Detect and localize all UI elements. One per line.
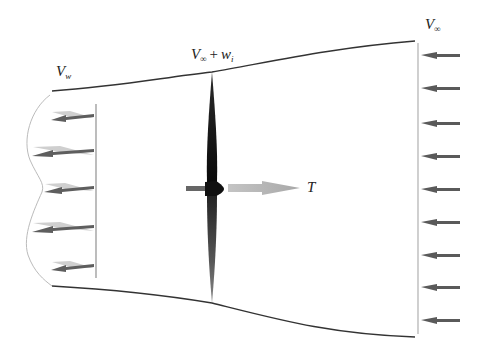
label-main: V [191, 46, 200, 62]
propeller-hub [205, 181, 224, 196]
propeller-blade-upper [207, 72, 217, 182]
streamtube-lower-boundary [52, 286, 415, 337]
freestream-arrows [421, 52, 460, 324]
label-freestream-velocity: V∞ [425, 17, 441, 34]
label-subscript: ∞ [434, 24, 440, 34]
wake-arrow [32, 222, 94, 233]
wake-arrow [32, 146, 94, 157]
thrust-arrow [228, 181, 300, 195]
freestream-arrow [421, 85, 460, 92]
label-main: V [425, 16, 434, 32]
freestream-arrow [421, 317, 460, 324]
freestream-arrow [421, 52, 460, 59]
freestream-arrow [421, 186, 460, 193]
label-wake-velocity: Vw [56, 64, 71, 81]
label-disk-velocity: V∞+wi [191, 47, 234, 64]
label-term: w [221, 46, 231, 62]
label-subscript: w [65, 71, 71, 81]
label-term-subscript: i [231, 54, 234, 64]
wake-velocity-profile [26, 95, 52, 286]
label-subscript: ∞ [200, 54, 206, 64]
freestream-arrow [421, 284, 460, 291]
freestream-arrow [421, 219, 460, 226]
freestream-arrow [421, 120, 460, 127]
wake-arrow [51, 261, 94, 272]
inflow-shaft [186, 186, 208, 191]
label-thrust: T [307, 180, 315, 195]
wake-arrows [32, 111, 94, 272]
label-main: V [56, 63, 65, 79]
wake-arrow [44, 183, 94, 194]
freestream-arrow [421, 252, 460, 259]
slipstream-diagram [0, 0, 482, 355]
wake-arrow [51, 111, 94, 122]
label-operator: + [210, 46, 218, 62]
propeller [205, 72, 224, 303]
propeller-blade-lower [207, 194, 217, 303]
freestream-arrow [421, 153, 460, 160]
